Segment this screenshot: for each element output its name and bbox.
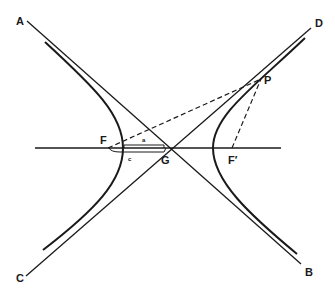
label-p-point: P xyxy=(264,74,271,86)
hyperbola-right-branch xyxy=(213,38,305,254)
label-g-center: G xyxy=(161,154,170,166)
label-f-focus: F xyxy=(100,134,107,146)
asymptote-ab xyxy=(27,21,301,264)
label-d-point: D xyxy=(315,17,323,29)
focal-radius-f-prime-p xyxy=(232,79,261,148)
label-a-length: a xyxy=(142,137,146,143)
label-c-length: c xyxy=(128,156,132,162)
label-a-point: A xyxy=(16,15,24,27)
label-c-point: C xyxy=(16,272,24,284)
hyperbola-diagram: A D C B P F F′ G a c xyxy=(0,0,335,296)
label-f-prime-focus: F′ xyxy=(228,154,238,166)
label-b-point: B xyxy=(305,266,313,278)
